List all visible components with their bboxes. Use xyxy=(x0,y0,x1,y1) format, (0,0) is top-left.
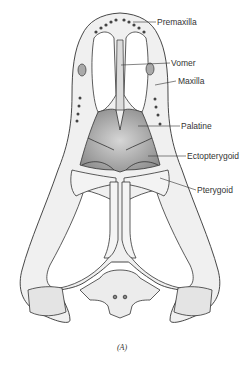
label-maxilla: Maxilla xyxy=(178,76,204,86)
label-pterygoid: Pterygoid xyxy=(197,185,233,195)
figure-caption: (A) xyxy=(0,343,244,352)
vomer-bone xyxy=(116,40,124,110)
label-ectopterygoid: Ectopterygoid xyxy=(187,151,239,161)
label-vomer: Vomer xyxy=(171,58,196,68)
label-premaxilla: Premaxilla xyxy=(157,17,197,27)
label-palatine: Palatine xyxy=(181,121,212,131)
